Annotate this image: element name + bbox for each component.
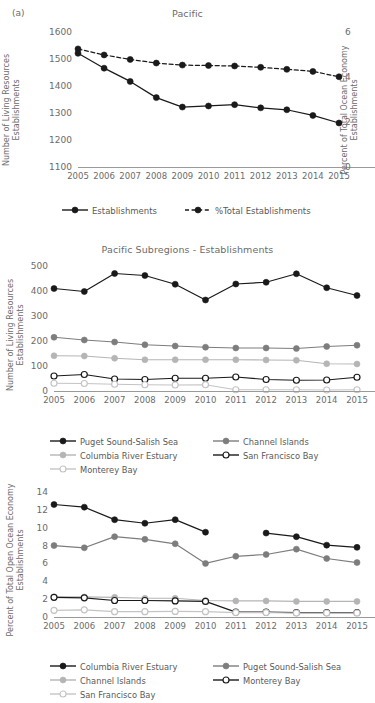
legend-label: %Total Establishments xyxy=(215,206,311,216)
legend-item[interactable]: Monterey Bay xyxy=(213,675,300,687)
chart-a-plot-area: 1600150014001300120011006420200520062007… xyxy=(0,24,375,189)
figure-root: (a) Pacific Number of Living Resources E… xyxy=(0,0,375,703)
y-axis-tick-label: 500 xyxy=(14,261,48,271)
y-axis-tick-label: 12 xyxy=(14,505,48,515)
y-axis-tick-label: 200 xyxy=(14,336,48,346)
y-axis-tick-label-right: 2 xyxy=(345,117,365,127)
x-axis-tick-label: 2013 xyxy=(276,171,298,181)
x-axis-tick-label: 2015 xyxy=(328,171,350,181)
x-axis-tick-label: 2006 xyxy=(93,171,115,181)
x-axis-tick-label: 2014 xyxy=(302,171,324,181)
legend-marker-icon xyxy=(50,436,76,448)
legend-label: Monterey Bay xyxy=(80,465,137,475)
legend-marker-icon xyxy=(213,436,239,448)
legend-item[interactable]: San Francisco Bay xyxy=(50,689,155,701)
legend-label: San Francisco Bay xyxy=(80,690,155,700)
x-axis-line xyxy=(54,617,375,618)
legend-marker-icon xyxy=(213,661,239,673)
x-axis-tick-label: 2012 xyxy=(255,621,277,631)
legend-item[interactable]: %Total Establishments xyxy=(185,205,311,217)
chart-panel-a: (a) Pacific Number of Living Resources E… xyxy=(0,0,375,235)
legend-marker-icon xyxy=(50,450,76,462)
legend-marker-icon xyxy=(50,689,76,701)
y-axis-tick-label: 1300 xyxy=(38,108,72,118)
x-axis-line xyxy=(54,391,375,392)
y-axis-tick-label: 1600 xyxy=(38,27,72,37)
legend-label: San Francisco Bay xyxy=(243,451,318,461)
chart-a-title: Pacific xyxy=(0,8,375,19)
x-axis-tick-label: 2008 xyxy=(134,395,156,405)
legend-label: Columbia River Estuary xyxy=(80,451,177,461)
y-axis-tick-label: 6 xyxy=(14,558,48,568)
y-axis-tick-label: 2 xyxy=(14,594,48,604)
x-axis-tick-label: 2005 xyxy=(67,171,89,181)
x-axis-tick-label: 2008 xyxy=(145,171,167,181)
legend-marker-icon xyxy=(62,205,88,217)
x-axis-line xyxy=(78,167,375,168)
legend-marker-icon xyxy=(50,675,76,687)
legend-marker-icon xyxy=(185,205,211,217)
x-axis-tick-label: 2014 xyxy=(316,621,338,631)
x-axis-tick-label: 2011 xyxy=(224,171,246,181)
legend-label: Columbia River Estuary xyxy=(80,662,177,672)
legend-item[interactable]: Channel Islands xyxy=(213,436,309,448)
x-axis-tick-label: 2005 xyxy=(43,395,65,405)
y-axis-tick-label-right: 6 xyxy=(345,27,365,37)
x-axis-tick-label: 2007 xyxy=(104,395,126,405)
y-axis-tick-label: 100 xyxy=(14,361,48,371)
legend-label: Puget Sound-Salish Sea xyxy=(80,437,178,447)
y-axis-tick-label: 1500 xyxy=(38,54,72,64)
legend-marker-icon xyxy=(213,450,239,462)
legend-marker-icon xyxy=(213,675,239,687)
x-axis-tick-label: 2008 xyxy=(134,621,156,631)
x-axis-tick-label: 2015 xyxy=(346,395,368,405)
x-axis-tick-label: 2011 xyxy=(225,621,247,631)
chart-b-plot-area: 5004003002001000200520062007200820092010… xyxy=(0,258,375,413)
x-axis-tick-label: 2010 xyxy=(195,621,217,631)
y-axis-tick-label: 4 xyxy=(14,576,48,586)
legend-item[interactable]: Puget Sound-Salish Sea xyxy=(213,661,341,673)
chart-panel-b: Pacific Subregions - Establishments Numb… xyxy=(0,238,375,475)
x-axis-tick-label: 2010 xyxy=(195,395,217,405)
legend-label: Establishments xyxy=(92,206,157,216)
legend-item[interactable]: Monterey Bay xyxy=(50,464,137,476)
legend-marker-icon xyxy=(50,464,76,476)
x-axis-tick-label: 2014 xyxy=(316,395,338,405)
legend-item[interactable]: San Francisco Bay xyxy=(213,450,318,462)
x-axis-tick-label: 2005 xyxy=(43,621,65,631)
chart-c-plot-area: 1412108642020052006200720082009201020112… xyxy=(0,484,375,639)
y-axis-tick-label: 10 xyxy=(14,523,48,533)
legend-label: Monterey Bay xyxy=(243,676,300,686)
legend-item[interactable]: Puget Sound-Salish Sea xyxy=(50,436,178,448)
legend-item[interactable]: Channel Islands xyxy=(50,675,146,687)
chart-b-title: Pacific Subregions - Establishments xyxy=(0,244,375,255)
y-axis-tick-label-right: 4 xyxy=(345,72,365,82)
y-axis-tick-label: 1200 xyxy=(38,135,72,145)
x-axis-tick-label: 2009 xyxy=(164,621,186,631)
y-axis-tick-label: 8 xyxy=(14,541,48,551)
x-axis-tick-label: 2015 xyxy=(346,621,368,631)
x-axis-tick-label: 2010 xyxy=(198,171,220,181)
legend-marker-icon xyxy=(50,661,76,673)
x-axis-tick-label: 2011 xyxy=(225,395,247,405)
chart-panel-c: Percent of Total Open Ocean Economy Esta… xyxy=(0,476,375,703)
x-axis-tick-label: 2013 xyxy=(286,395,308,405)
x-axis-tick-label: 2007 xyxy=(119,171,141,181)
x-axis-tick-label: 2009 xyxy=(164,395,186,405)
x-axis-tick-label: 2009 xyxy=(172,171,194,181)
y-axis-tick-label: 1400 xyxy=(38,81,72,91)
legend-label: Puget Sound-Salish Sea xyxy=(243,662,341,672)
y-axis-tick-label: 400 xyxy=(14,286,48,296)
legend-item[interactable]: Columbia River Estuary xyxy=(50,450,177,462)
x-axis-tick-label: 2012 xyxy=(255,395,277,405)
y-axis-tick-label: 300 xyxy=(14,311,48,321)
legend-item[interactable]: Establishments xyxy=(62,205,157,217)
legend-label: Channel Islands xyxy=(80,676,146,686)
x-axis-tick-label: 2007 xyxy=(104,621,126,631)
x-axis-tick-label: 2012 xyxy=(250,171,272,181)
x-axis-tick-label: 2006 xyxy=(73,621,95,631)
legend-item[interactable]: Columbia River Estuary xyxy=(50,661,177,673)
x-axis-tick-label: 2006 xyxy=(73,395,95,405)
legend-label: Channel Islands xyxy=(243,437,309,447)
x-axis-tick-label: 2013 xyxy=(286,621,308,631)
